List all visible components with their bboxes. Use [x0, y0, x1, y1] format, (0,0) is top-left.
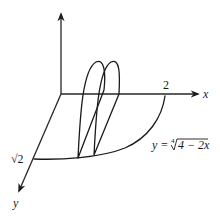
- cross-section-2: [94, 61, 119, 155]
- solid-diagram: x y 2 √2 y = 4 4 − 2x: [0, 0, 220, 217]
- root-index: 4: [171, 137, 175, 145]
- y-axis: [19, 94, 61, 191]
- y-axis-label: y: [12, 196, 19, 210]
- base-curve: [34, 96, 165, 159]
- radicand: 4 − 2x: [178, 138, 210, 152]
- x-intercept-label: 2: [163, 78, 169, 92]
- curve-equation: y = 4 4 − 2x: [151, 137, 210, 152]
- x-axis-label: x: [202, 87, 209, 101]
- cross-section-1: [78, 61, 105, 158]
- svg-text:y =: y =: [151, 138, 168, 152]
- y-intercept-label: √2: [11, 152, 24, 166]
